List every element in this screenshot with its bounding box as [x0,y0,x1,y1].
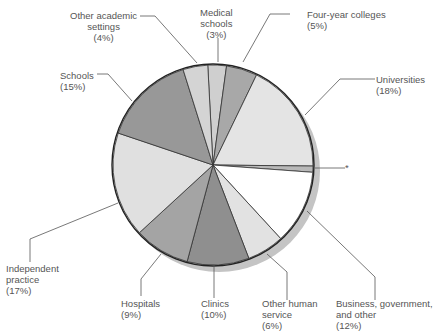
label-hospitals: Hospitals (9%) [121,298,160,320]
label-independent-practice: Independent practice (17%) [6,263,59,296]
label-schools: Schools (15%) [60,70,94,92]
label-medical-schools: Medical schools (3%) [200,7,233,40]
label-universities: Universities (18%) [376,74,425,96]
label-other-academic: Other academic settings (4%) [70,10,137,43]
label-business-government: Business, government, and other (12%) [336,298,433,331]
label-other-human-service: Other human service (6%) [262,298,317,331]
pie-slices [113,65,313,265]
label-clinics: Clinics (10%) [201,298,229,320]
label-four-year-colleges: Four-year colleges (5%) [307,9,386,31]
label-asterisk: * [345,162,349,173]
